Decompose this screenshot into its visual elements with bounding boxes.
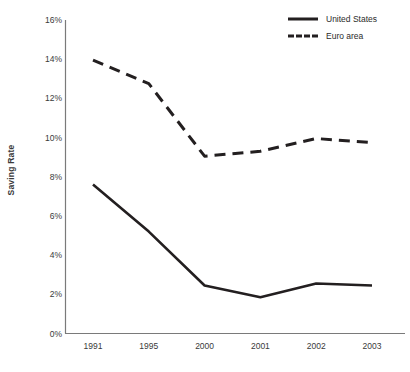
chart-legend: United States Euro area [288,11,408,45]
series-line-euro-area [93,60,372,156]
data-series-group [93,60,372,297]
legend-item-euro-area: Euro area [288,28,408,44]
legend-label-euro-area: Euro area [326,31,363,41]
axis-lines [65,20,405,334]
series-line-united-states [93,185,372,298]
saving-rate-line-chart: Saving Rate 0%2%4%6%8%10%12%14%16% 19911… [0,0,410,372]
legend-item-united-states: United States [288,11,408,27]
legend-line-dashed-icon [288,31,318,42]
legend-label-united-states: United States [326,14,377,24]
plot-area [0,0,410,372]
legend-line-solid-icon [288,14,318,25]
